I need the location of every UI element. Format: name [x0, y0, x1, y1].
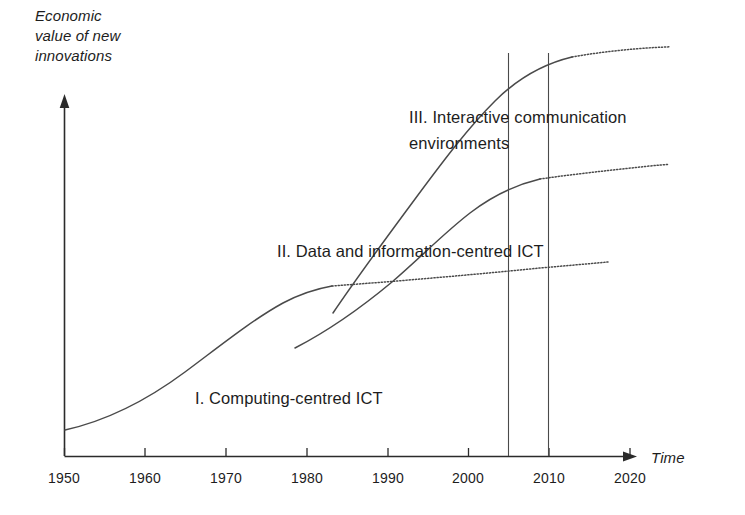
curve-interactive-communication-dotted	[572, 47, 670, 57]
y-axis-title: Economic value of new innovations	[35, 6, 205, 66]
x-tick-label-1990: 1990	[358, 470, 418, 486]
x-axis-ticks	[65, 448, 631, 456]
curve-interactive-communication-solid	[333, 57, 572, 313]
x-tick-label-2010: 2010	[519, 470, 579, 486]
x-tick-label-1970: 1970	[196, 470, 256, 486]
curve-data-information-dotted	[540, 164, 669, 179]
x-axis-title: Time	[651, 448, 685, 468]
x-tick-label-2020: 2020	[600, 470, 660, 486]
x-axis	[65, 452, 638, 462]
curve-label-interactive-communication: III. Interactive communication environme…	[409, 104, 729, 156]
curve-computing-centred-dotted	[332, 262, 608, 286]
x-tick-label-2000: 2000	[438, 470, 498, 486]
y-axis	[60, 94, 70, 456]
curve-label-data-information: II. Data and information-centred ICT	[277, 238, 637, 264]
chart-figure: Economic value of new innovations Time 1…	[0, 0, 745, 515]
curve-label-computing-centred: I. Computing-centred ICT	[195, 385, 495, 411]
x-tick-label-1960: 1960	[115, 470, 175, 486]
x-tick-label-1950: 1950	[34, 470, 94, 486]
x-tick-label-1980: 1980	[277, 470, 337, 486]
